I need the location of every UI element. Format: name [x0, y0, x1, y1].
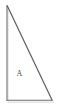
region-label-a: A [15, 70, 24, 78]
figure-canvas: A [0, 0, 60, 109]
triangle-diagram [0, 0, 60, 109]
